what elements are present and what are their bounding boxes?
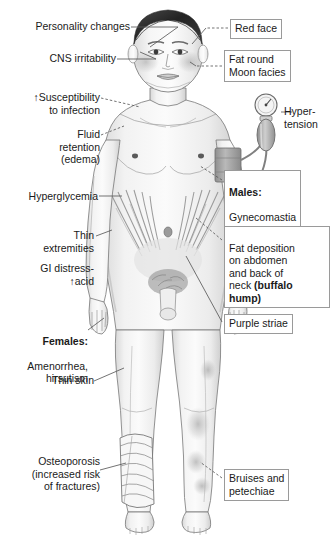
label-osteoporosis: Osteoporosis (increased risk of fracture… bbox=[2, 455, 100, 493]
label-hyperglycemia: Hyperglycemia bbox=[4, 190, 98, 203]
label-males-gynecomastia: Males: Gynecomastia bbox=[224, 170, 301, 227]
label-gi-distress: GI distress- ↑acid bbox=[14, 262, 94, 287]
label-moon-facies: Fat round Moon facies bbox=[224, 50, 291, 82]
label-thin-skin: Thin skin bbox=[18, 374, 94, 387]
label-bruises-petechiae: Bruises and petechiae bbox=[224, 469, 289, 501]
label-males-heading: Males: bbox=[229, 186, 262, 198]
label-susceptibility-to-infection: ↑Susceptibility to infection bbox=[2, 91, 100, 116]
label-cns-irritability: CNS irritability bbox=[8, 52, 116, 65]
label-males-body: Gynecomastia bbox=[229, 211, 296, 223]
label-thin-extremities: Thin extremities bbox=[18, 229, 94, 254]
label-fat-deposition: Fat deposition on abdomen and back of ne… bbox=[224, 226, 330, 308]
label-fluid-retention: Fluid retention (edema) bbox=[14, 128, 100, 166]
label-purple-striae: Purple striae bbox=[224, 314, 293, 334]
diagram-canvas: Personality changes CNS irritability ↑Su… bbox=[0, 0, 336, 536]
label-females-heading: Females: bbox=[4, 335, 88, 348]
label-hypertension: Hyper- tension bbox=[284, 105, 332, 130]
label-personality-changes: Personality changes bbox=[8, 20, 130, 33]
label-red-face: Red face bbox=[230, 19, 282, 39]
